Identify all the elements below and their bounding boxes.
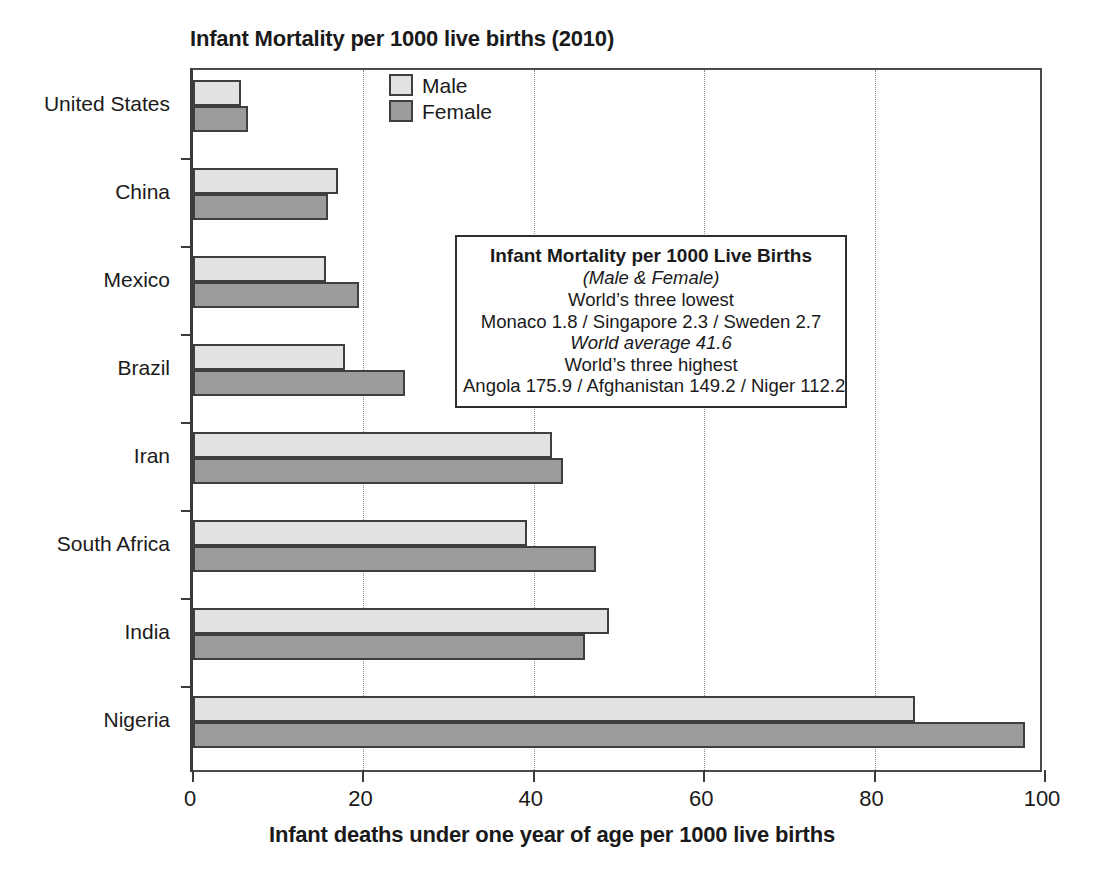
annotation-line: Infant Mortality per 1000 Live Births xyxy=(463,245,839,267)
legend-label: Male xyxy=(422,75,468,96)
bar-male xyxy=(193,608,609,634)
gridline xyxy=(534,70,535,770)
bar-female xyxy=(193,282,359,308)
legend-item: Female xyxy=(389,100,492,122)
y-axis-tick xyxy=(181,334,193,336)
y-axis-label: China xyxy=(115,180,170,204)
bar-female xyxy=(193,194,328,220)
bar-male xyxy=(193,80,241,106)
y-axis-label: South Africa xyxy=(57,532,170,556)
gridline xyxy=(704,70,705,770)
x-axis-tick xyxy=(533,770,535,782)
gridline xyxy=(363,70,364,770)
bar-female xyxy=(193,106,248,132)
annotation-line: World average 41.6 xyxy=(463,332,839,354)
annotation-line: World’s three highest xyxy=(463,354,839,376)
x-axis-tick-label: 20 xyxy=(348,786,372,812)
bar-female xyxy=(193,722,1025,748)
x-axis-tick xyxy=(362,770,364,782)
y-axis-label: India xyxy=(124,620,170,644)
legend-swatch-icon xyxy=(389,74,413,96)
y-axis-tick xyxy=(181,422,193,424)
x-axis-tick-label: 60 xyxy=(689,786,713,812)
bar-female xyxy=(193,634,585,660)
legend: MaleFemale xyxy=(389,74,492,122)
bar-female xyxy=(193,370,405,396)
bar-male xyxy=(193,256,326,282)
y-axis-tick xyxy=(181,598,193,600)
y-axis-tick xyxy=(181,158,193,160)
bar-male xyxy=(193,432,552,458)
bar-male xyxy=(193,168,338,194)
x-axis-tick xyxy=(192,770,194,782)
x-axis-tick-labels: 020406080100 xyxy=(0,786,1104,820)
y-axis-labels: United StatesChinaMexicoBrazilIranSouth … xyxy=(0,0,178,882)
y-axis-tick xyxy=(181,246,193,248)
bar-female xyxy=(193,546,596,572)
plot-area xyxy=(190,68,1042,772)
legend-label: Female xyxy=(422,101,492,122)
x-axis-tick-label: 40 xyxy=(519,786,543,812)
x-axis-title: Infant deaths under one year of age per … xyxy=(0,822,1104,848)
y-axis-label: Nigeria xyxy=(103,708,170,732)
x-axis-tick xyxy=(703,770,705,782)
y-axis-label: Mexico xyxy=(103,268,170,292)
annotation-line: World’s three lowest xyxy=(463,289,839,311)
y-axis-label: United States xyxy=(44,92,170,116)
annotation-line: (Male & Female) xyxy=(463,267,839,289)
y-axis-tick xyxy=(181,510,193,512)
x-axis-tick xyxy=(874,770,876,782)
bar-male xyxy=(193,344,345,370)
bar-male xyxy=(193,696,915,722)
x-axis-tick-label: 100 xyxy=(1024,786,1061,812)
y-axis-label: Brazil xyxy=(117,356,170,380)
annotation-line: Monaco 1.8 / Singapore 2.3 / Sweden 2.7 xyxy=(463,311,839,333)
bar-male xyxy=(193,520,527,546)
x-axis-tick-label: 80 xyxy=(859,786,883,812)
x-axis-tick xyxy=(1044,770,1046,782)
y-axis-label: Iran xyxy=(134,444,170,468)
chart-root: Infant Mortality per 1000 live births (2… xyxy=(0,0,1104,882)
chart-title: Infant Mortality per 1000 live births (2… xyxy=(190,26,614,52)
y-axis-tick xyxy=(181,686,193,688)
bar-female xyxy=(193,458,563,484)
statistics-annotation-box: Infant Mortality per 1000 Live Births(Ma… xyxy=(455,235,847,408)
gridline xyxy=(875,70,876,770)
annotation-line: Angola 175.9 / Afghanistan 149.2 / Niger… xyxy=(463,375,839,397)
x-axis-tick-label: 0 xyxy=(184,786,196,812)
legend-swatch-icon xyxy=(389,100,413,122)
legend-item: Male xyxy=(389,74,492,96)
